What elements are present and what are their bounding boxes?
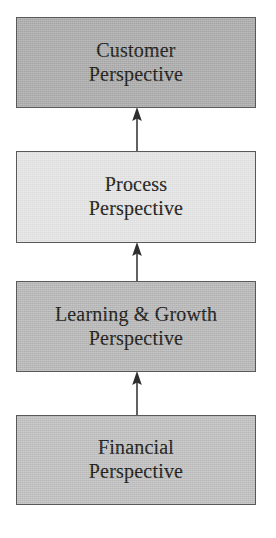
customer-perspective-label: CustomerPerspective	[83, 39, 189, 86]
learning-and-growth-perspective-line1: Learning & Growth	[55, 303, 217, 325]
process-perspective-label: ProcessPerspective	[83, 173, 189, 220]
perspectives-flow-diagram: CustomerPerspective ProcessPerspective L…	[0, 0, 276, 538]
arrow-financial-to-learning	[132, 371, 142, 415]
process-perspective-line1: Process	[105, 173, 168, 195]
financial-perspective-line1: Financial	[98, 436, 174, 458]
financial-perspective-line2: Perspective	[89, 460, 183, 482]
financial-perspective-box[interactable]: FinancialPerspective	[16, 415, 256, 505]
financial-perspective-label: FinancialPerspective	[83, 436, 189, 483]
customer-perspective-box[interactable]: CustomerPerspective	[16, 17, 256, 108]
process-perspective-line2: Perspective	[89, 197, 183, 219]
learning-and-growth-perspective-line2: Perspective	[89, 327, 183, 349]
customer-perspective-line2: Perspective	[89, 63, 183, 85]
arrow-learning-to-process	[132, 242, 142, 281]
learning-and-growth-perspective-box[interactable]: Learning & GrowthPerspective	[16, 281, 256, 372]
learning-and-growth-perspective-label: Learning & GrowthPerspective	[49, 303, 223, 350]
customer-perspective-line1: Customer	[96, 39, 175, 61]
arrow-process-to-customer	[132, 107, 142, 151]
process-perspective-box[interactable]: ProcessPerspective	[16, 151, 256, 243]
